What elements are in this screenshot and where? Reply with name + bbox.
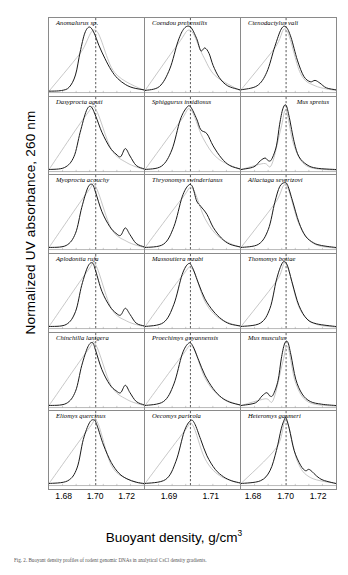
x-tick-label: 1.71 — [202, 491, 219, 501]
y-axis-title: Normalized UV absorbance, 260 nm — [23, 53, 38, 393]
reference-trace — [241, 185, 336, 248]
reference-trace — [145, 108, 240, 169]
figure-rodent-buoyant-density: Normalized UV absorbance, 260 nm Anomalu… — [0, 0, 348, 575]
panel-dasyprocta-aguti: Dasyprocta aguti — [49, 97, 145, 176]
reference-trace — [145, 30, 240, 91]
sample-trace — [145, 420, 240, 483]
reference-trace — [49, 419, 144, 485]
sample-trace — [241, 418, 336, 484]
reference-trace — [49, 106, 144, 170]
reference-trace — [241, 29, 336, 91]
x-axis-tick-labels: 1.681.701.721.691.711.681.701.72 — [48, 491, 336, 505]
panel-proechimys-guyannensis: Proechimys guyannensis — [145, 333, 241, 412]
sample-trace — [241, 104, 336, 169]
x-axis-title: Buoyant density, g/cm3 — [0, 528, 348, 545]
reference-trace — [145, 267, 240, 327]
x-axis-title-text: Buoyant density, g/cm — [106, 530, 238, 545]
panel-grid: Anomalurus sp.Coendou prehensilisCtenoda… — [48, 17, 337, 490]
reference-trace — [49, 341, 144, 405]
x-tick-label: 1.68 — [245, 491, 262, 501]
sample-trace — [49, 420, 144, 484]
reference-trace — [49, 183, 144, 248]
sample-trace — [241, 183, 336, 248]
reference-trace — [241, 263, 336, 327]
x-tick-label: 1.68 — [55, 491, 72, 501]
x-tick-label: 1.72 — [118, 491, 135, 501]
sample-trace — [49, 263, 144, 327]
reference-trace — [241, 110, 336, 170]
panel-aplodontia-rufa: Aplodontia rufa — [49, 254, 145, 333]
sample-trace — [49, 27, 144, 91]
reference-trace — [49, 261, 144, 326]
reference-trace — [241, 421, 336, 484]
reference-trace — [145, 345, 240, 405]
sample-trace — [241, 262, 336, 327]
x-tick-label: 1.70 — [277, 491, 294, 501]
sample-trace — [145, 26, 240, 90]
panel-mus-musculus: Mus musculus — [241, 333, 337, 412]
x-axis-title-exponent: 3 — [238, 528, 243, 538]
sample-trace — [145, 342, 240, 405]
sample-trace — [49, 342, 144, 405]
panel-thomomys-bottae: Thomomys bottae — [241, 254, 337, 333]
sample-trace — [145, 263, 240, 326]
panel-heteromys-gaumeri: Heteromys gaumeri — [241, 411, 337, 490]
reference-trace — [145, 188, 240, 248]
panel-anomalurus-sp: Anomalurus sp. — [49, 18, 145, 97]
panel-sphiggurus-insidiosus: Sphiggurus insidiosus — [145, 97, 241, 176]
sample-trace — [49, 106, 144, 169]
x-tick-label: 1.69 — [161, 491, 178, 501]
x-tick-label: 1.72 — [310, 491, 327, 501]
panel-mus-spretus: Mus spretus — [241, 97, 337, 176]
panel-chinchilla-lanigera: Chinchilla lanigera — [49, 333, 145, 412]
sample-trace — [145, 105, 240, 169]
x-tick-label: 1.70 — [87, 491, 104, 501]
sample-trace — [145, 185, 240, 248]
panel-oecomys-paricola: Oecomys paricola — [145, 411, 241, 490]
panel-myoprocta-acouchy: Myoprocta acouchy — [49, 175, 145, 254]
reference-trace — [241, 346, 336, 406]
reference-trace — [145, 423, 240, 484]
figure-caption: Fig. 2. Buoyant density profiles of rode… — [14, 557, 338, 573]
panel-thryonomys-swinderianus: Thryonomys swinderianus — [145, 175, 241, 254]
panel-ctenodactylus-vali: Ctenodactylus vali — [241, 18, 337, 97]
panel-coendou-prehensilis: Coendou prehensilis — [145, 18, 241, 97]
panel-eliomys-quercinus: Eliomys quercinus — [49, 411, 145, 490]
panel-massoutiera-mzabi: Massoutiera mzabi — [145, 254, 241, 333]
panel-allactaga-severtzovi: Allactaga severtzovi — [241, 175, 337, 254]
sample-trace — [49, 184, 144, 247]
